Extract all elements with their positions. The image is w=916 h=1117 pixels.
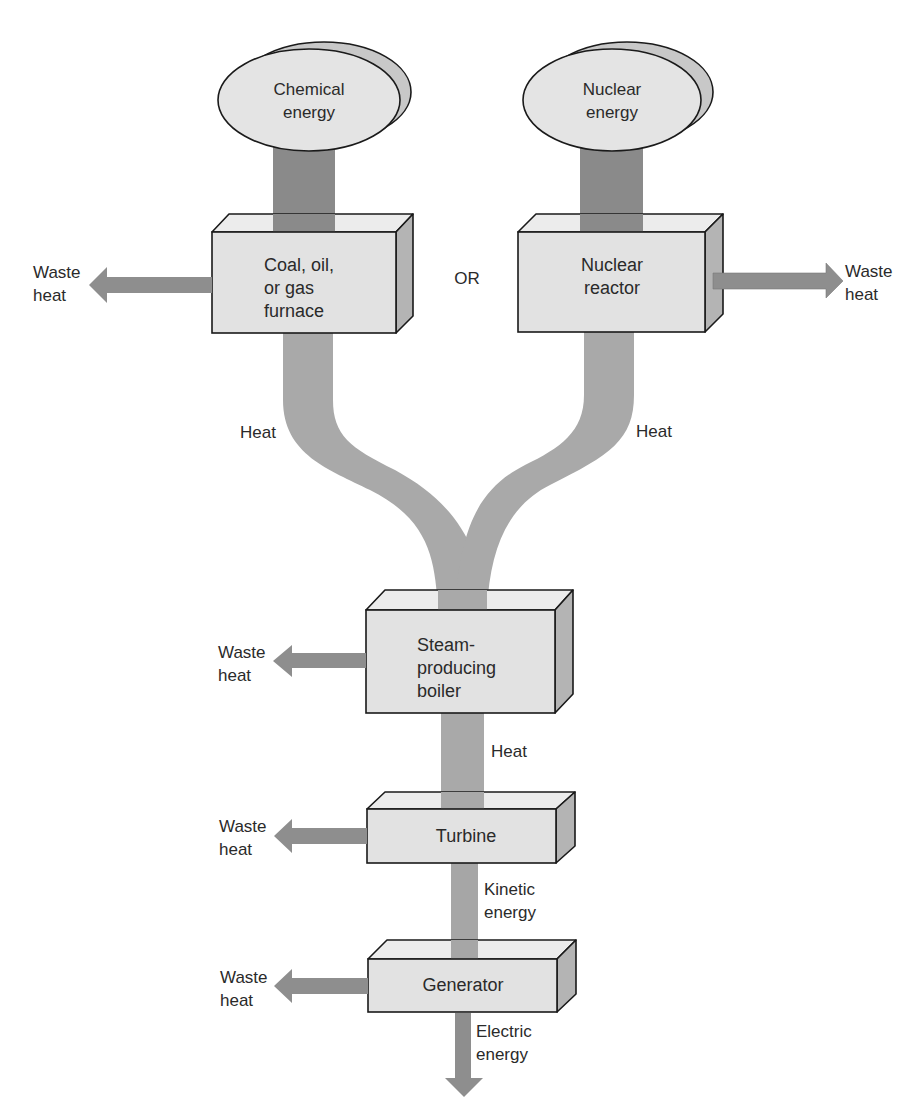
waste-heat-generator: Waste heat <box>220 968 368 1010</box>
reactor-label-line1: Nuclear <box>581 255 643 275</box>
furnace-label-line2: or gas <box>264 278 314 298</box>
heat-pipe-left <box>283 330 487 610</box>
heat-label-boiler: Heat <box>491 742 527 761</box>
waste-heat-turbine: Waste heat <box>219 817 367 859</box>
waste-label-line2: heat <box>220 991 253 1010</box>
chemical-label-line2: energy <box>283 103 335 122</box>
furnace-label-line1: Coal, oil, <box>264 255 334 275</box>
nuclear-label-line1: Nuclear <box>583 80 642 99</box>
heat-label-left: Heat <box>240 423 276 442</box>
electric-label-line1: Electric <box>476 1022 532 1041</box>
boiler-label-line3: boiler <box>417 681 461 701</box>
kinetic-label-line1: Kinetic <box>484 880 536 899</box>
chemical-energy-source: Chemical energy <box>218 42 411 151</box>
boiler-label-line2: producing <box>417 658 496 678</box>
waste-label-line2: heat <box>218 666 251 685</box>
waste-label-line1: Waste <box>218 643 266 662</box>
reactor-box: Nuclear reactor <box>518 214 723 332</box>
turbine-box: Turbine <box>367 792 575 863</box>
arrow-left-icon <box>274 969 368 1003</box>
boiler-label-line1: Steam- <box>417 635 475 655</box>
waste-label-line2: heat <box>33 286 66 305</box>
furnace-box: Coal, oil, or gas furnace <box>212 214 413 333</box>
nuclear-pillar <box>580 145 643 225</box>
generator-box: Generator <box>368 940 576 1012</box>
waste-heat-boiler: Waste heat <box>218 643 366 685</box>
arrow-right-icon <box>713 263 843 298</box>
arrow-left-icon <box>273 645 366 677</box>
kinetic-shaft <box>451 862 478 944</box>
energy-flow-diagram: Chemical energy Nuclear energy Coal, oil… <box>0 0 916 1117</box>
waste-label-line1: Waste <box>33 263 81 282</box>
generator-label: Generator <box>422 975 503 995</box>
arrow-left-icon <box>274 819 367 853</box>
chemical-label-line1: Chemical <box>274 80 345 99</box>
reactor-label-line2: reactor <box>584 278 640 298</box>
arrow-left-icon <box>89 267 212 303</box>
electric-label-line2: energy <box>476 1045 528 1064</box>
waste-label-line1: Waste <box>219 817 267 836</box>
heat-label-right: Heat <box>636 422 672 441</box>
waste-label-line1: Waste <box>845 262 893 281</box>
kinetic-label-line2: energy <box>484 903 536 922</box>
turbine-label: Turbine <box>436 826 496 846</box>
waste-heat-furnace: Waste heat <box>33 263 212 305</box>
waste-label-line1: Waste <box>220 968 268 987</box>
waste-label-line2: heat <box>219 840 252 859</box>
waste-label-line2: heat <box>845 285 878 304</box>
ellipse-front <box>523 49 701 151</box>
nuclear-energy-source: Nuclear energy <box>523 42 713 151</box>
ellipse-front <box>218 49 400 151</box>
furnace-label-line3: furnace <box>264 301 324 321</box>
waste-heat-reactor: Waste heat <box>713 262 893 304</box>
chemical-pillar <box>273 145 335 225</box>
or-label: OR <box>454 269 480 288</box>
heat-pipe-right <box>455 330 634 610</box>
boiler-box: Steam- producing boiler <box>366 590 573 713</box>
nuclear-label-line2: energy <box>586 103 638 122</box>
